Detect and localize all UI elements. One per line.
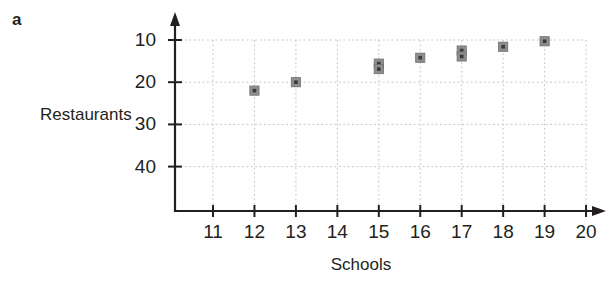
x-tick-label: 20 (566, 222, 606, 241)
marker-inner-dot (543, 39, 547, 43)
x-tick-label: 17 (442, 222, 482, 241)
marker-inner-dot (253, 89, 257, 93)
data-point-marker (250, 86, 259, 95)
x-tick-label: 13 (276, 222, 316, 241)
y-tick-label: 40 (110, 157, 156, 176)
marker-inner-dot (418, 56, 422, 60)
x-tick-label: 12 (234, 222, 274, 241)
data-point-marker (540, 37, 549, 46)
data-point-marker (457, 52, 466, 61)
data-point-marker (416, 53, 425, 62)
data-point-marker (374, 65, 383, 74)
marker-inner-dot (377, 67, 381, 71)
figure-panel-a: a Restaurants Schools 40302010 111213141… (0, 0, 610, 290)
scatter-plot (0, 0, 610, 290)
x-axis-arrowhead (592, 206, 606, 216)
y-tick-label: 30 (110, 114, 156, 133)
data-point-marker (291, 78, 300, 87)
x-tick-label: 18 (483, 222, 523, 241)
y-axis-arrowhead (170, 12, 180, 26)
marker-inner-dot (460, 55, 464, 59)
x-tick-label: 16 (400, 222, 440, 241)
x-tick-label: 19 (525, 222, 565, 241)
y-tick-label: 10 (110, 30, 156, 49)
marker-inner-dot (294, 80, 298, 84)
data-markers (250, 37, 549, 96)
x-tick-label: 11 (193, 222, 233, 241)
x-tick-label: 15 (359, 222, 399, 241)
data-point-marker (499, 42, 508, 51)
x-tick-label: 14 (317, 222, 357, 241)
marker-inner-dot (501, 45, 505, 49)
y-tick-label: 20 (110, 72, 156, 91)
